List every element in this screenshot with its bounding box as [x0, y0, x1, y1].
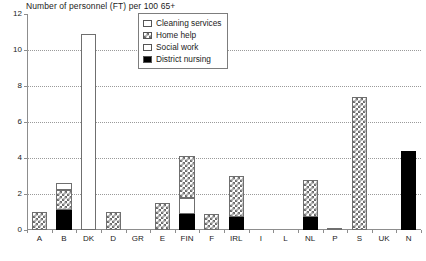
- x-axis-tick-label-IRL: IRL: [224, 234, 249, 243]
- bar-segment-F-home-help: [204, 214, 219, 230]
- bar-segment-FIN-social-work: [179, 198, 194, 214]
- bar-segment-E-home-help: [155, 203, 170, 230]
- x-axis-tick-mark: [52, 230, 53, 233]
- bar-segment-P-home-help: [327, 228, 342, 230]
- x-axis-tick-label-S: S: [347, 234, 372, 243]
- chart-container: Number of personnel (FT) per 100 65+ 024…: [0, 0, 426, 261]
- x-axis-tick-label-D: D: [101, 234, 126, 243]
- x-axis-tick-mark: [224, 230, 225, 233]
- x-axis-tick-label-P: P: [323, 234, 348, 243]
- x-axis-tick-mark: [199, 230, 200, 233]
- bar-segment-FIN-home-help: [179, 156, 194, 197]
- x-axis-tick-label-FIN: FIN: [175, 234, 200, 243]
- x-axis-tick-mark: [101, 230, 102, 233]
- bar-NL: [303, 14, 318, 230]
- x-axis-tick-mark: [347, 230, 348, 233]
- x-axis-tick-mark: [126, 230, 127, 233]
- x-axis-tick-mark: [298, 230, 299, 233]
- y-axis-tick-label: 10: [0, 45, 22, 54]
- y-axis-tick-label: 6: [0, 117, 22, 126]
- legend-swatch-cleaning-services-icon: [143, 20, 152, 27]
- legend-item: Cleaning services: [143, 17, 221, 29]
- bar-N: [401, 14, 416, 230]
- y-axis-tick-label: 0: [0, 225, 22, 234]
- x-axis-tick-label-I: I: [249, 234, 274, 243]
- bar-IRL: [229, 14, 244, 230]
- legend-label: Social work: [156, 42, 198, 52]
- legend-swatch-district-nursing-icon: [143, 56, 152, 63]
- x-axis-tick-mark: [323, 230, 324, 233]
- bar-segment-B-district-nursing: [56, 210, 71, 230]
- legend-item: Social work: [143, 41, 221, 53]
- y-axis-tick-label: 4: [0, 153, 22, 162]
- legend-item: District nursing: [143, 53, 221, 65]
- bar-segment-S-home-help: [352, 97, 367, 230]
- x-axis-tick-mark: [421, 230, 422, 233]
- legend-item: Home help: [143, 29, 221, 41]
- x-axis-tick-mark: [76, 230, 77, 233]
- legend-label: District nursing: [156, 54, 211, 64]
- y-axis-tick-label: 8: [0, 81, 22, 90]
- bar-S: [352, 14, 367, 230]
- bar-segment-A-home-help: [32, 212, 47, 230]
- x-axis-tick-label-NL: NL: [298, 234, 323, 243]
- x-axis-tick-label-DK: DK: [76, 234, 101, 243]
- x-axis-tick-label-UK: UK: [372, 234, 397, 243]
- bar-segment-NL-district-nursing: [303, 217, 318, 230]
- bar-segment-B-home-help: [56, 190, 71, 210]
- x-axis-tick-label-N: N: [396, 234, 421, 243]
- bar-UK: [376, 14, 391, 230]
- bar-segment-N-district-nursing: [401, 151, 416, 230]
- x-axis-tick-label-L: L: [273, 234, 298, 243]
- bar-segment-FIN-district-nursing: [179, 214, 194, 230]
- bar-I: [253, 14, 268, 230]
- bar-segment-B-cleaning-services: [56, 183, 71, 190]
- chart-title: Number of personnel (FT) per 100 65+: [26, 1, 175, 11]
- x-axis-tick-mark: [273, 230, 274, 233]
- chart-legend: Cleaning services Home help Social work …: [138, 13, 228, 69]
- bar-segment-DK-cleaning-services: [81, 34, 96, 230]
- legend-label: Cleaning services: [156, 18, 221, 28]
- x-axis-tick-mark: [249, 230, 250, 233]
- legend-swatch-social-work-icon: [143, 44, 152, 51]
- bar-DK: [81, 14, 96, 230]
- bar-A: [32, 14, 47, 230]
- y-axis-tick-label: 2: [0, 189, 22, 198]
- x-axis-tick-mark: [372, 230, 373, 233]
- x-axis-tick-mark: [27, 230, 28, 233]
- bar-segment-D-home-help: [106, 212, 121, 230]
- x-axis-tick-label-F: F: [199, 234, 224, 243]
- x-axis-tick-label-E: E: [150, 234, 175, 243]
- bar-segment-IRL-home-help: [229, 176, 244, 217]
- bar-segment-NL-home-help: [303, 180, 318, 218]
- x-axis-tick-label-B: B: [52, 234, 77, 243]
- x-axis-tick-label-A: A: [27, 234, 52, 243]
- bar-D: [106, 14, 121, 230]
- x-axis-tick-mark: [396, 230, 397, 233]
- bar-B: [56, 14, 71, 230]
- legend-swatch-home-help-icon: [143, 32, 152, 39]
- x-axis-tick-mark: [150, 230, 151, 233]
- legend-label: Home help: [156, 30, 196, 40]
- bar-L: [278, 14, 293, 230]
- bar-P: [327, 14, 342, 230]
- bar-segment-IRL-district-nursing: [229, 217, 244, 230]
- x-axis-tick-label-GR: GR: [126, 234, 151, 243]
- x-axis-tick-mark: [175, 230, 176, 233]
- y-axis-tick-label: 12: [0, 9, 22, 18]
